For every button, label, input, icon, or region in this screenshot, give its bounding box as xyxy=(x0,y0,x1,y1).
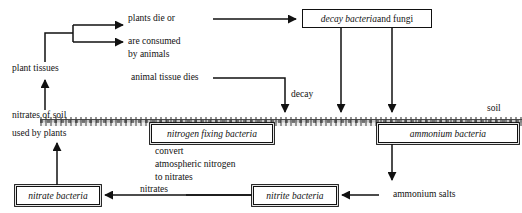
box-decay-bacteria-roman: and fungi xyxy=(377,14,413,24)
label-plant-tissues: plant tissues xyxy=(12,63,59,75)
label-used-by-plants: used by plants xyxy=(12,128,66,140)
line-plant-tissues-up xyxy=(45,33,73,62)
box-ammonium-bacteria[interactable]: ammonium bacteria xyxy=(378,124,518,143)
label-nitrates-of-soil: nitrates of soil xyxy=(12,110,66,122)
box-nitrate-bacteria-label: nitrate bacteria xyxy=(28,191,87,201)
box-nitrite-bacteria[interactable]: nitrite bacteria xyxy=(253,186,337,205)
label-atmospheric-nitrogen: atmospheric nitrogen xyxy=(155,159,235,171)
box-decay-bacteria-and-fungi[interactable]: decay bacteria and fungi xyxy=(302,9,432,28)
arrow-animal-tissue-decay xyxy=(213,78,285,112)
box-ammonium-bacteria-label: ammonium bacteria xyxy=(410,129,486,139)
label-by-animals: by animals xyxy=(128,49,169,61)
label-soil: soil xyxy=(487,103,501,115)
label-are-consumed: are consumed xyxy=(128,36,181,48)
label-plants-die-or: plants die or xyxy=(128,13,175,25)
label-ammonium-salts: ammonium salts xyxy=(393,189,456,201)
label-decay: decay xyxy=(291,89,313,101)
box-decay-bacteria-italic: decay bacteria xyxy=(321,14,377,24)
connector-lines xyxy=(0,0,522,213)
nitrogen-cycle-diagram: plant tissues plants die or are consumed… xyxy=(0,0,522,213)
label-to-nitrates: to nitrates xyxy=(155,172,193,184)
label-animal-tissue-dies: animal tissue dies xyxy=(131,72,199,84)
label-nitrates: nitrates xyxy=(140,184,168,196)
box-nitrate-bacteria[interactable]: nitrate bacteria xyxy=(16,186,100,205)
box-nitrogen-fixing-bacteria-label: nitrogen fixing bacteria xyxy=(167,129,257,139)
label-convert: convert xyxy=(155,146,184,158)
box-nitrogen-fixing-bacteria[interactable]: nitrogen fixing bacteria xyxy=(151,124,273,143)
box-nitrite-bacteria-label: nitrite bacteria xyxy=(266,191,323,201)
